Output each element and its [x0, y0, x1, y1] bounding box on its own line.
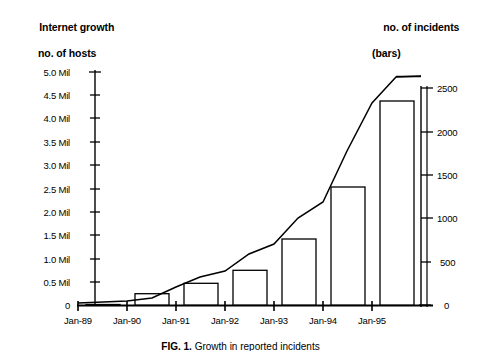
left-tick-label-3-0: 3.0 Mil	[18, 160, 70, 171]
bar-jan-91	[184, 283, 218, 305]
bar-jan-93	[282, 239, 316, 305]
figure-caption: FIG. 1. Growth in reported incidents	[0, 341, 481, 351]
plot-area	[0, 0, 481, 351]
figure-caption-label: FIG. 1.	[161, 341, 192, 351]
left-tick-label-4-5: 4.5 Mil	[18, 90, 70, 101]
bar-jan-94	[331, 187, 365, 305]
x-tick-label-jan-95: Jan-95	[342, 315, 402, 326]
left-tick-label-2-5: 2.5 Mil	[18, 184, 70, 195]
left-tick-label-1-0: 1.0 Mil	[18, 254, 70, 265]
chart-canvas	[0, 0, 481, 351]
bar-series-incidents	[86, 101, 414, 305]
right-tick-label-2500: 2500	[437, 83, 457, 94]
right-tick-label-2000: 2000	[437, 127, 457, 138]
figure-caption-text: Growth in reported incidents	[195, 341, 320, 351]
left-tick-label-3-5: 3.5 Mil	[18, 137, 70, 148]
bar-jan-92	[233, 270, 267, 305]
line-series-hosts	[78, 76, 421, 303]
left-tick-label-0: 0	[18, 300, 70, 311]
right-tick-label-1000: 1000	[437, 213, 457, 224]
left-tick-label-5-0: 5.0 Mil	[18, 67, 70, 78]
figure-internet-growth-incidents: Internet growth no. of hosts no. of inci…	[0, 0, 481, 351]
right-tick-label-500: 500	[440, 257, 455, 268]
right-tick-label-0: 0	[444, 300, 449, 311]
bar-jan-95	[380, 101, 414, 305]
right-tick-label-1500: 1500	[437, 170, 457, 181]
left-tick-label-0-5: 0.5 Mil	[18, 277, 70, 288]
left-tick-label-4-0: 4.0 Mil	[18, 113, 70, 124]
left-tick-label-2-0: 2.0 Mil	[18, 207, 70, 218]
left-tick-label-1-5: 1.5 Mil	[18, 230, 70, 241]
bar-jan-89	[86, 305, 120, 306]
